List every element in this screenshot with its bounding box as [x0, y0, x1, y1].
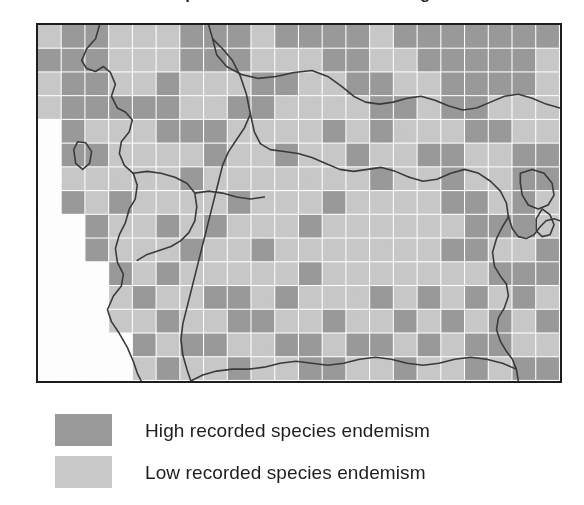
legend-item-high-label: High recorded species endemism [145, 421, 430, 440]
high-endemism-swatch [55, 414, 112, 446]
country-borders-layer [38, 25, 560, 381]
low-endemism-swatch [55, 456, 112, 488]
legend-item-low: Low recorded species endemism [55, 451, 535, 493]
map-legend: High recorded species endemism Low recor… [55, 409, 535, 493]
cropped-figure-title: Recorded species endemism in the Congo B… [0, 0, 584, 9]
endemism-map [36, 23, 562, 383]
legend-item-low-label: Low recorded species endemism [145, 463, 426, 482]
legend-item-high: High recorded species endemism [55, 409, 535, 451]
figure-title-text: Recorded species endemism in the Congo B… [0, 0, 584, 4]
